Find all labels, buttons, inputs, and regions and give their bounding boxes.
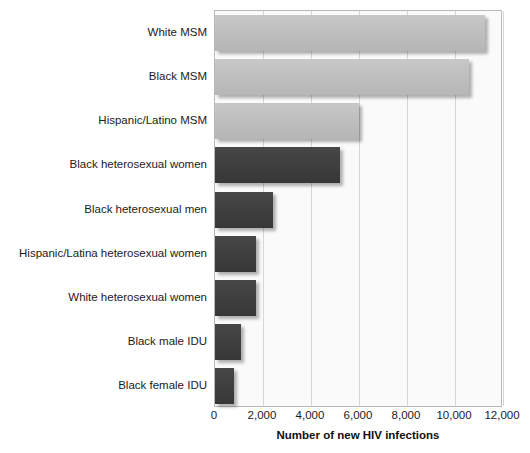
x-axis-title: Number of new HIV infections	[214, 429, 502, 441]
bar-chart: White MSMBlack MSMHispanic/Latino MSMBla…	[0, 0, 530, 453]
bar	[215, 147, 340, 183]
bar	[215, 103, 359, 139]
bar	[215, 280, 256, 316]
bar	[215, 368, 234, 404]
bar	[215, 59, 469, 95]
x-tick-label: 12,000	[484, 409, 519, 421]
x-tick-label: 8,000	[392, 409, 421, 421]
bar	[215, 15, 485, 51]
gridline	[503, 11, 504, 406]
x-tick-label: 2,000	[248, 409, 277, 421]
x-tick-label: 0	[211, 409, 217, 421]
category-label: Hispanic/Latina heterosexual women	[0, 235, 207, 271]
x-tick-label: 4,000	[296, 409, 325, 421]
category-label: Black heterosexual women	[0, 146, 207, 182]
category-label: Hispanic/Latino MSM	[0, 102, 207, 138]
category-label: White heterosexual women	[0, 279, 207, 315]
bar	[215, 324, 241, 360]
category-label: Black male IDU	[0, 323, 207, 359]
x-axis-tick-labels: 02,0004,0006,0008,00010,00012,000	[0, 409, 530, 425]
bar	[215, 192, 273, 228]
bars-layer	[215, 11, 501, 406]
x-tick-label: 6,000	[344, 409, 373, 421]
category-label: White MSM	[0, 14, 207, 50]
x-tick-label: 10,000	[436, 409, 471, 421]
bar	[215, 236, 256, 272]
category-label: Black MSM	[0, 58, 207, 94]
plot-area	[214, 10, 502, 407]
category-axis-labels: White MSMBlack MSMHispanic/Latino MSMBla…	[0, 10, 207, 407]
category-label: Black heterosexual men	[0, 191, 207, 227]
category-label: Black female IDU	[0, 367, 207, 403]
